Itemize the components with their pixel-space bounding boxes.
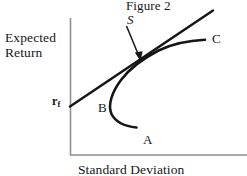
figure-canvas: Figure 2 ExpectedReturn Standard Deviati… bbox=[0, 0, 247, 176]
figure-drawing bbox=[0, 0, 247, 176]
risk-free-rate-subscript: f bbox=[57, 99, 60, 109]
portfolio-frontier-curve bbox=[110, 40, 205, 128]
x-axis-label: Standard Deviation bbox=[78, 162, 184, 176]
tangency-arrow-shaft bbox=[127, 26, 139, 55]
frontier-end-label: C bbox=[212, 32, 221, 47]
region-label: A bbox=[143, 133, 153, 148]
y-axis-label-line1: Expected bbox=[5, 30, 56, 45]
risk-free-rate-label: rf bbox=[52, 95, 60, 110]
capital-allocation-line bbox=[70, 11, 213, 107]
y-axis-label: ExpectedReturn bbox=[5, 30, 56, 60]
tangency-arrow bbox=[127, 26, 143, 61]
y-axis-label-line2: Return bbox=[5, 45, 42, 60]
minimum-variance-label: B bbox=[98, 101, 107, 116]
tangency-point-label: S bbox=[127, 13, 134, 28]
